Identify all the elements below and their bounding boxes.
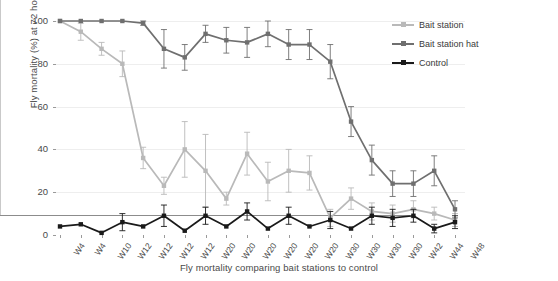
x-tick-label: W30 bbox=[406, 241, 424, 261]
data-point bbox=[307, 171, 311, 175]
x-tick-label: W30 bbox=[365, 241, 383, 261]
x-tick-label: W44 bbox=[448, 241, 466, 261]
data-point bbox=[286, 169, 290, 173]
data-point bbox=[328, 218, 332, 222]
data-point bbox=[183, 147, 187, 151]
data-point bbox=[224, 38, 228, 42]
data-point bbox=[349, 226, 353, 230]
data-point bbox=[99, 231, 103, 235]
data-point bbox=[58, 19, 62, 23]
data-point bbox=[411, 181, 415, 185]
data-point bbox=[349, 196, 353, 200]
y-tick-label: 60 bbox=[22, 101, 48, 112]
data-point bbox=[203, 169, 207, 173]
data-point bbox=[266, 32, 270, 36]
data-point bbox=[432, 226, 436, 230]
data-point bbox=[432, 169, 436, 173]
data-point bbox=[266, 226, 270, 230]
data-point bbox=[370, 158, 374, 162]
x-tick-mark bbox=[393, 235, 394, 238]
x-tick-mark bbox=[143, 235, 144, 238]
x-tick-label: W4 bbox=[92, 241, 108, 257]
x-tick-label: W20 bbox=[302, 241, 320, 261]
x-tick-mark bbox=[60, 235, 61, 238]
data-point bbox=[162, 184, 166, 188]
x-tick-mark bbox=[434, 235, 435, 238]
series-control bbox=[58, 203, 458, 235]
x-tick-label: W20 bbox=[240, 241, 258, 261]
data-point bbox=[266, 179, 270, 183]
legend-item-bait-station: Bait station bbox=[392, 17, 479, 32]
data-point bbox=[162, 47, 166, 51]
y-tick-label: 0 bbox=[22, 229, 48, 240]
data-point bbox=[245, 40, 249, 44]
data-point bbox=[99, 19, 103, 23]
x-tick-mark bbox=[330, 235, 331, 238]
data-point bbox=[79, 222, 83, 226]
data-point bbox=[120, 220, 124, 224]
x-tick-label: W12 bbox=[136, 241, 154, 261]
x-tick-mark bbox=[372, 235, 373, 238]
x-tick-mark bbox=[226, 235, 227, 238]
data-point bbox=[183, 55, 187, 59]
x-tick-label: W12 bbox=[198, 241, 216, 261]
data-point bbox=[79, 19, 83, 23]
data-point bbox=[203, 32, 207, 36]
legend-label: Bait station hat bbox=[419, 39, 479, 49]
x-tick-label: W4 bbox=[71, 241, 87, 257]
y-tick-label: 20 bbox=[22, 186, 48, 197]
data-point bbox=[390, 216, 394, 220]
x-tick-label: W12 bbox=[177, 241, 195, 261]
y-tick-mark bbox=[53, 235, 56, 236]
data-point bbox=[245, 151, 249, 155]
x-tick-mark bbox=[413, 235, 414, 238]
x-tick-mark bbox=[206, 235, 207, 238]
legend-swatch-icon bbox=[392, 58, 414, 68]
x-tick-label: W20 bbox=[281, 241, 299, 261]
data-point bbox=[79, 30, 83, 34]
data-point bbox=[141, 224, 145, 228]
data-point bbox=[224, 224, 228, 228]
data-point bbox=[245, 209, 249, 213]
data-point bbox=[162, 214, 166, 218]
data-point bbox=[183, 229, 187, 233]
chart-legend: Bait station Bait station hat Control bbox=[392, 17, 479, 74]
data-point bbox=[286, 42, 290, 46]
data-point bbox=[120, 19, 124, 23]
y-axis-line bbox=[0, 0, 1, 215]
legend-item-control: Control bbox=[392, 55, 479, 70]
x-tick-mark bbox=[289, 235, 290, 238]
x-tick-mark bbox=[455, 235, 456, 238]
series-line bbox=[60, 211, 455, 232]
data-point bbox=[203, 214, 207, 218]
data-point bbox=[141, 21, 145, 25]
x-tick-label: W20 bbox=[323, 241, 341, 261]
legend-swatch-icon bbox=[392, 39, 414, 49]
legend-label: Control bbox=[419, 58, 448, 68]
x-tick-mark bbox=[102, 235, 103, 238]
x-tick-mark bbox=[351, 235, 352, 238]
x-tick-label: W12 bbox=[157, 241, 175, 261]
data-point bbox=[432, 211, 436, 215]
data-point bbox=[120, 62, 124, 66]
data-point bbox=[370, 214, 374, 218]
data-point bbox=[224, 196, 228, 200]
data-point bbox=[58, 224, 62, 228]
x-tick-label: W42 bbox=[427, 241, 445, 261]
y-tick-label: 80 bbox=[22, 58, 48, 69]
data-point bbox=[349, 119, 353, 123]
legend-item-bait-station-hat: Bait station hat bbox=[392, 36, 479, 51]
data-point bbox=[286, 214, 290, 218]
data-point bbox=[328, 59, 332, 63]
x-tick-mark bbox=[309, 235, 310, 238]
data-point bbox=[453, 207, 457, 211]
x-tick-label: W30 bbox=[385, 241, 403, 261]
data-point bbox=[307, 42, 311, 46]
data-point bbox=[411, 214, 415, 218]
x-tick-label: W30 bbox=[344, 241, 362, 261]
x-tick-mark bbox=[164, 235, 165, 238]
legend-label: Bait station bbox=[419, 20, 464, 30]
y-tick-label: 100 bbox=[22, 15, 48, 26]
x-tick-label: W20 bbox=[219, 241, 237, 261]
y-tick-label: 40 bbox=[22, 143, 48, 154]
